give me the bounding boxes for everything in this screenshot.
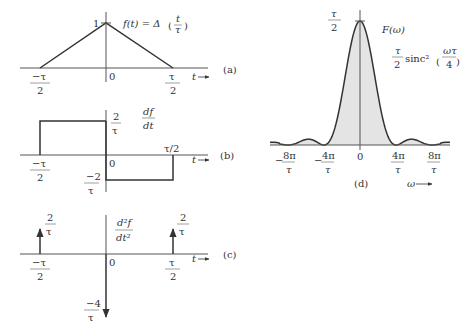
panel-label-a: (a) (223, 64, 237, 75)
panel-label-b: (b) (220, 150, 234, 161)
tick-neg-num: −τ (32, 158, 46, 169)
peak-label: 1 (93, 18, 99, 29)
tick-minus-4pi-num: 4π (322, 150, 335, 161)
tick-zero: 0 (357, 151, 363, 162)
right-impulse-num: 2 (180, 212, 186, 223)
tick-8pi-num: 8π (428, 150, 441, 161)
tick-neg-num: −τ (32, 257, 46, 268)
tick-neg-den: 2 (37, 85, 43, 96)
spectrum-title: F(ω) (381, 24, 405, 35)
title-num: df (143, 106, 155, 117)
tick-pos-num: τ (169, 257, 175, 268)
tick-minus-4pi-den: τ (325, 164, 331, 175)
right-impulse-den: τ (179, 226, 185, 237)
origin-label: 0 (109, 257, 115, 268)
paren-open: ( (436, 56, 440, 67)
tick-neg-num: −τ (32, 71, 46, 82)
origin-label: 0 (109, 71, 115, 82)
tick-4pi-num: 4π (392, 150, 405, 161)
tick-pos-den: 2 (170, 271, 176, 282)
axis-label-t: t (192, 253, 197, 264)
panel-label-c: (c) (223, 249, 237, 260)
formula-arg-num: ωτ (443, 45, 457, 56)
title-arg-num: t (176, 13, 181, 24)
peak-num: τ (331, 8, 337, 19)
paren-open: ( (168, 20, 172, 31)
axis-label-t: t (192, 71, 197, 82)
center-impulse-num: −4 (86, 298, 101, 309)
left-impulse-den: τ (46, 226, 52, 237)
title-den: dt² (116, 232, 130, 243)
panel-c-second-derivative: 2 τ 2 τ d²f dt² 0 −τ 2 τ 2 −4 τ t (c) (20, 212, 237, 323)
title-arg-den: τ (175, 24, 181, 35)
title-num: d²f (117, 217, 133, 228)
paren-close: ) (456, 56, 460, 67)
origin-label: 0 (109, 158, 115, 169)
center-impulse-den: τ (88, 312, 94, 323)
panel-b-derivative: 2 τ df dt 0 −τ 2 −2 τ τ/2 t (b) (20, 106, 234, 196)
diagram-canvas: 1 f(t) = Δ t τ ( ) 0 −τ 2 τ 2 t (a) 2 τ … (0, 0, 466, 330)
tick-4pi-den: τ (395, 164, 401, 175)
tick-minus-8pi-den: τ (286, 164, 292, 175)
axis-label-omega: ω (407, 178, 415, 189)
axis-label-t: t (192, 154, 197, 165)
neg-level-den: τ (88, 185, 94, 196)
formula-coef-num: τ (395, 45, 401, 56)
tick-pos-num: τ (169, 71, 175, 82)
neg-level-num: −2 (86, 171, 101, 182)
tick-minus-8pi-num: 8π (283, 150, 296, 161)
panel-a-triangle: 1 f(t) = Δ t τ ( ) 0 −τ 2 τ 2 t (a) (20, 12, 237, 96)
formula-function: sinc² (405, 53, 429, 64)
tick-pos-label: τ/2 (164, 143, 179, 154)
peak-den: 2 (331, 22, 337, 33)
tick-8pi-den: τ (431, 164, 437, 175)
title-den: dt (143, 120, 154, 131)
tick-neg-den: 2 (37, 271, 43, 282)
formula-coef-den: 2 (394, 59, 400, 70)
positive-step (40, 121, 106, 155)
panel-d-spectrum: τ 2 F(ω) τ 2 sinc² ( ωτ 4 ) − 8π τ − 4π … (270, 8, 460, 189)
pos-level-den: τ (112, 125, 118, 136)
pos-level-num: 2 (113, 111, 119, 122)
tick-neg-den: 2 (37, 172, 43, 183)
left-impulse-num: 2 (47, 212, 53, 223)
tick-pos-den: 2 (170, 85, 176, 96)
paren-close: ) (184, 20, 188, 31)
formula-arg-den: 4 (446, 59, 452, 70)
panel-label-d: (d) (354, 178, 368, 189)
function-title: f(t) = Δ (122, 18, 160, 29)
